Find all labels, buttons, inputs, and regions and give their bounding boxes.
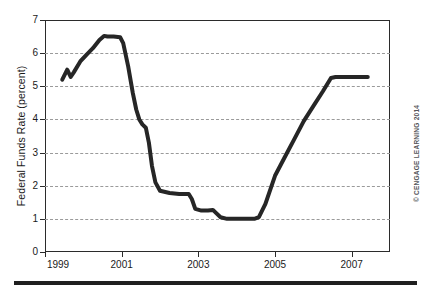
y-tick-label-4: 4 bbox=[32, 114, 38, 124]
x-tick-label-2007: 2007 bbox=[341, 259, 363, 270]
x-tick-mark-2005 bbox=[275, 252, 276, 257]
x-tick-label-2005: 2005 bbox=[264, 259, 286, 270]
x-tick-mark-1999 bbox=[45, 252, 46, 257]
y-axis-title: Federal Funds Rate (percent) bbox=[14, 20, 28, 252]
y-tick-label-7: 7 bbox=[32, 15, 38, 25]
line-series-layer bbox=[45, 20, 390, 252]
y-tick-label-5: 5 bbox=[32, 81, 38, 91]
x-tick-label-2001: 2001 bbox=[111, 259, 133, 270]
y-tick-label-6: 6 bbox=[32, 48, 38, 58]
copyright-credit: © CENGAGE LEARNING 2014 bbox=[410, 150, 424, 270]
y-tick-label-2: 2 bbox=[32, 181, 38, 191]
y-tick-label-0: 0 bbox=[32, 247, 38, 257]
y-tick-label-1: 1 bbox=[32, 214, 38, 224]
x-tick-label-1999: 1999 bbox=[47, 259, 69, 270]
plot-area: 76543210 19992001200320052007 bbox=[45, 20, 390, 252]
y-tick-label-3: 3 bbox=[32, 148, 38, 158]
x-tick-mark-2001 bbox=[122, 252, 123, 257]
series-line-federal-funds-rate bbox=[62, 36, 368, 219]
x-tick-mark-2003 bbox=[198, 252, 199, 257]
y-axis-title-text: Federal Funds Rate (percent) bbox=[15, 66, 27, 207]
copyright-credit-text: © CENGAGE LEARNING 2014 bbox=[414, 105, 421, 202]
x-tick-label-2003: 2003 bbox=[187, 259, 209, 270]
figure-federal-funds-rate-chart: Federal Funds Rate (percent) 76543210 19… bbox=[0, 0, 427, 291]
x-tick-mark-2007 bbox=[352, 252, 353, 257]
footer-rule bbox=[14, 281, 417, 285]
